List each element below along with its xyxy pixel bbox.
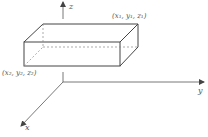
z-axis-label: z (68, 2, 74, 11)
x-axis (21, 82, 63, 126)
corner1-label: (x₁, y₁, z₁) (112, 12, 147, 20)
corner2-label: (x₂, y₂, z₂) (2, 69, 37, 77)
axes (21, 2, 204, 126)
box-top-right-edge (120, 24, 138, 42)
y-axis-label: y (197, 86, 203, 95)
hidden-edges (24, 24, 138, 66)
x-axis-label: x (25, 123, 30, 132)
hidden-bottom-left-depth (24, 47, 43, 66)
coordinate-diagram: z y x (x₁, y₁, z₁) (x₂, y₂, z₂) (0, 0, 208, 137)
box-front-face (24, 42, 120, 66)
rectangular-box (24, 24, 138, 66)
box-top-left-edge (24, 24, 43, 42)
box-bottom-right-edge (120, 47, 138, 66)
